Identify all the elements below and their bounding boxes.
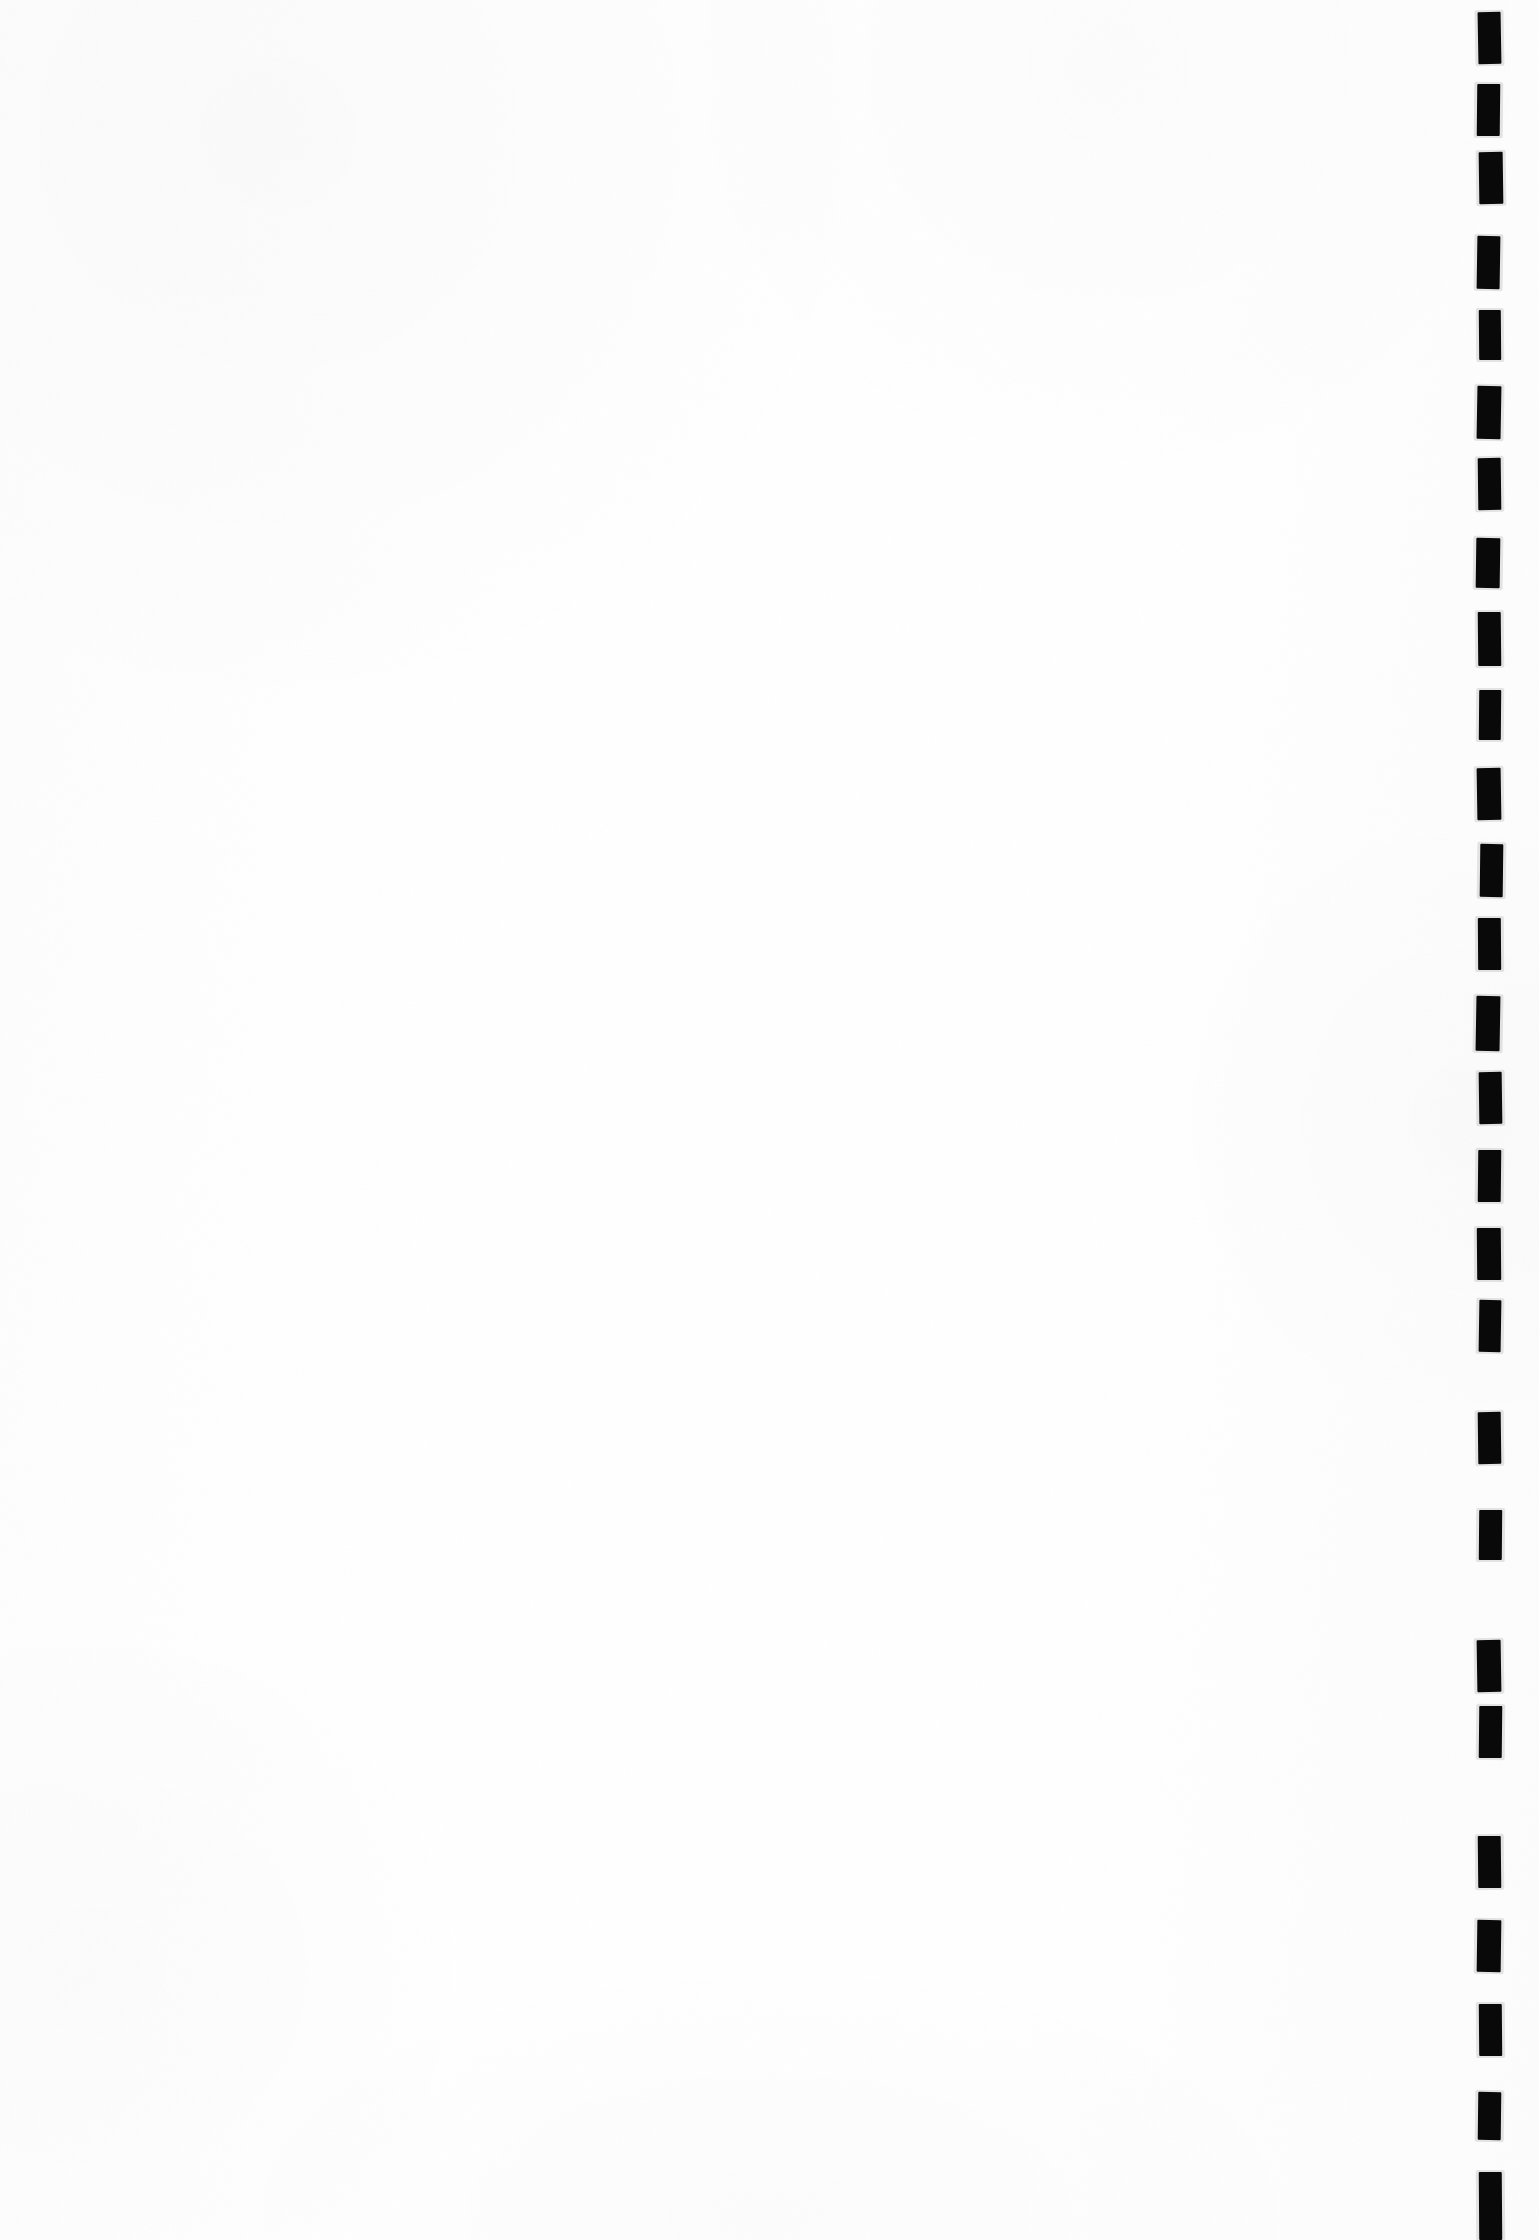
scanned-page [0, 0, 1539, 2240]
registration-mark [1479, 1510, 1502, 1560]
registration-mark [1477, 84, 1501, 136]
registration-mark [1479, 2172, 1502, 2240]
registration-mark [1478, 12, 1502, 64]
registration-mark [1478, 1150, 1502, 1202]
registration-mark [1479, 310, 1501, 360]
registration-mark [1478, 612, 1502, 666]
registration-mark [1480, 844, 1504, 897]
registration-mark [1478, 458, 1502, 510]
registration-mark [1478, 2092, 1502, 2140]
registration-mark [1477, 768, 1502, 820]
registration-mark [1477, 236, 1501, 289]
registration-mark [1479, 690, 1501, 740]
registration-mark [1477, 386, 1502, 439]
registration-mark [1479, 1300, 1502, 1352]
registration-mark [1479, 2004, 1502, 2056]
registration-mark [1479, 152, 1504, 204]
registration-mark [1477, 1920, 1502, 1972]
registration-mark [1479, 1706, 1503, 1758]
registration-mark [1479, 1072, 1503, 1124]
registration-mark [1476, 538, 1501, 588]
registration-mark [1477, 1228, 1501, 1280]
registration-mark [1478, 1836, 1502, 1888]
registration-mark [1476, 996, 1501, 1051]
registration-mark [1478, 1412, 1502, 1464]
registration-mark [1478, 918, 1501, 970]
page-content-area [0, 0, 1460, 2240]
registration-mark [1477, 1640, 1502, 1692]
